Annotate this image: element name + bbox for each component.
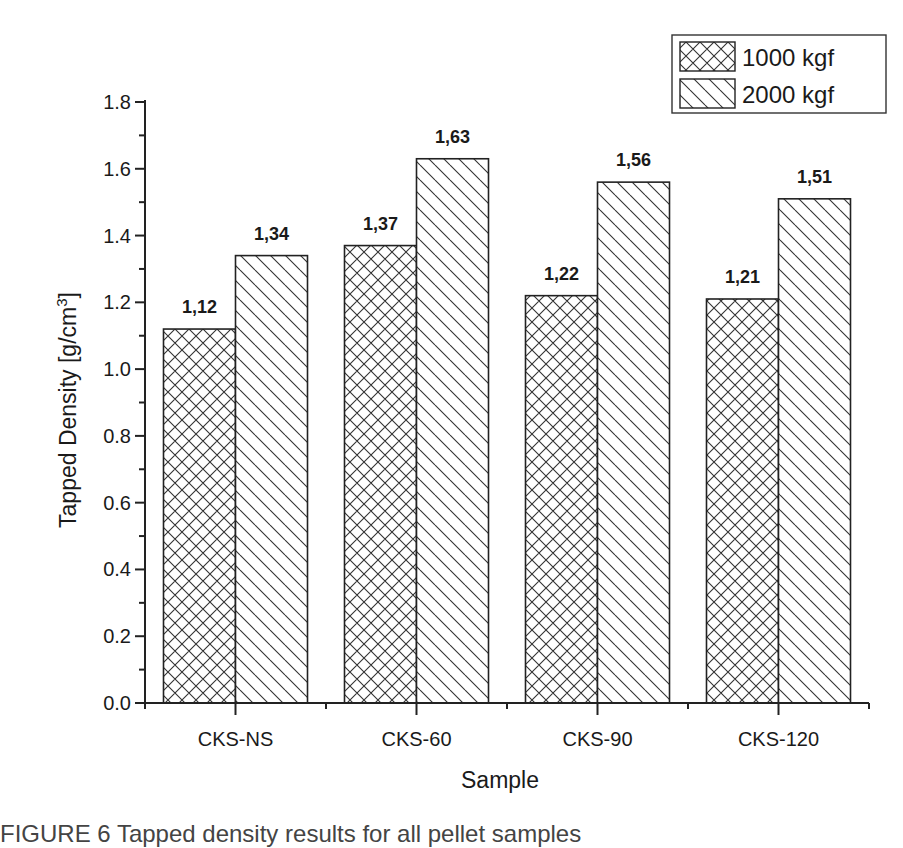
bar-value-label: 1,56 (616, 150, 651, 170)
bar (598, 182, 670, 703)
y-tick-label: 0.8 (103, 425, 131, 447)
y-tick-label: 1.8 (103, 91, 131, 113)
bar (164, 329, 236, 703)
bar (526, 296, 598, 703)
bar-value-label: 1,37 (363, 214, 398, 234)
bar-value-label: 1,21 (725, 267, 760, 287)
x-category-label: CKS-90 (562, 728, 632, 750)
bar-value-label: 1,34 (254, 224, 289, 244)
y-tick-label: 0.6 (103, 492, 131, 514)
legend-swatch (680, 79, 735, 108)
legend-swatch (680, 42, 735, 71)
bar (236, 256, 308, 703)
y-tick-label: 1.0 (103, 358, 131, 380)
bar (345, 246, 417, 703)
y-tick-label: 1.4 (103, 225, 131, 247)
x-axis: CKS-NSCKS-60CKS-90CKS-120 (135, 703, 869, 750)
y-tick-label: 1.2 (103, 291, 131, 313)
x-category-label: CKS-120 (738, 728, 819, 750)
y-tick-label: 0.4 (103, 558, 131, 580)
bar-value-label: 1,63 (435, 127, 470, 147)
x-category-label: CKS-NS (198, 728, 274, 750)
bar-value-label: 1,51 (797, 167, 832, 187)
y-tick-label: 0.0 (103, 692, 131, 714)
x-axis-title: Sample (461, 767, 539, 793)
y-tick-label: 1.6 (103, 158, 131, 180)
x-category-label: CKS-60 (381, 728, 451, 750)
y-axis: 0.00.20.40.60.81.01.21.41.61.8 (103, 91, 145, 714)
bar-value-label: 1,22 (544, 264, 579, 284)
legend: 1000 kgf2000 kgf (672, 35, 886, 113)
y-tick-label: 0.2 (103, 625, 131, 647)
legend-label: 2000 kgf (742, 81, 834, 108)
figure-caption: FIGURE 6 Tapped density results for all … (0, 820, 581, 848)
bar-value-label: 1,12 (182, 297, 217, 317)
bar (707, 299, 779, 703)
bar (417, 159, 489, 703)
bar (779, 199, 851, 703)
legend-label: 1000 kgf (742, 44, 834, 71)
y-axis-title: Tapped Density [g/cm3] (53, 292, 81, 528)
